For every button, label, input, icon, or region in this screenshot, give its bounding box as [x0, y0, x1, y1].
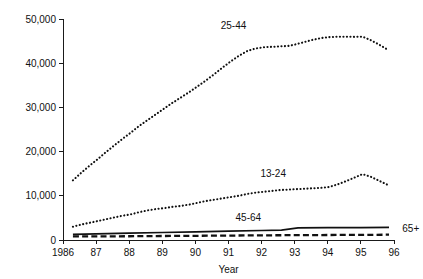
x-axis-ticks: 198687888990919293949596: [52, 240, 400, 258]
series-line-13-24: [73, 174, 387, 227]
y-tick-label: 50,000: [25, 14, 56, 25]
series-label-65plus: 65+: [402, 223, 419, 234]
x-tick-label: 93: [289, 247, 301, 258]
x-tick-label: 94: [322, 247, 334, 258]
x-tick-label: 90: [190, 247, 202, 258]
series-lines: [73, 37, 389, 237]
y-axis-ticks: 010,00020,00030,00040,00050,000: [25, 14, 63, 246]
y-tick-label: 0: [50, 235, 56, 246]
series-label-13-24: 13-24: [260, 168, 286, 179]
x-axis-title: Year: [218, 264, 239, 275]
x-tick-label: 95: [355, 247, 367, 258]
y-tick-label: 10,000: [25, 190, 56, 201]
series-annotations: 25-4413-2445-6465+: [221, 20, 420, 234]
x-tick-label: 1986: [52, 247, 75, 258]
chart-container: 010,00020,00030,00040,00050,000 19868788…: [0, 0, 423, 279]
line-chart: 010,00020,00030,00040,00050,000 19868788…: [0, 0, 423, 279]
x-tick-label: 87: [91, 247, 103, 258]
series-line-25-44: [73, 37, 387, 181]
x-tick-label: 89: [157, 247, 169, 258]
series-line-65plus: [73, 235, 389, 237]
x-tick-label: 88: [124, 247, 136, 258]
y-tick-label: 40,000: [25, 58, 56, 69]
series-label-25-44: 25-44: [221, 20, 247, 31]
y-tick-label: 20,000: [25, 146, 56, 157]
series-label-45-64: 45-64: [236, 212, 262, 223]
y-tick-label: 30,000: [25, 102, 56, 113]
series-line-45-64: [73, 227, 389, 234]
x-tick-label: 91: [223, 247, 235, 258]
x-tick-label: 92: [256, 247, 268, 258]
x-tick-label: 96: [388, 247, 400, 258]
